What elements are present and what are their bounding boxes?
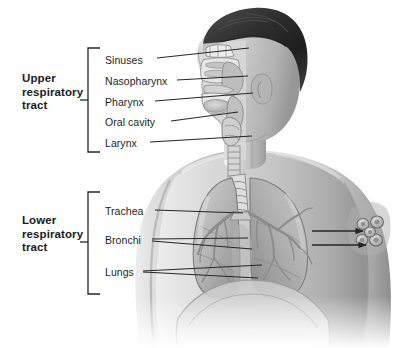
group-label-lower-respiratory-tract: Lower respiratory tract [22,214,92,255]
group-lower-line2: respiratory [22,228,92,242]
group-lower-line3: tract [22,241,92,255]
leader-lungs-b [143,272,258,278]
group-upper-line1: Upper [22,72,92,86]
label-oral-cavity: Oral cavity [105,116,155,128]
group-lower-line1: Lower [22,214,92,228]
leader-nasopharynx [177,76,248,80]
label-larynx: Larynx [105,137,137,149]
label-pharynx: Pharynx [105,96,144,108]
leader-lungs-a [143,265,262,271]
respiratory-diagram-figure: Upper respiratory tract Lower respirator… [0,0,404,348]
leader-oral-cavity [171,112,238,121]
label-sinuses: Sinuses [105,54,143,66]
label-trachea: Trachea [105,205,143,217]
alveoli-arrows [312,231,366,245]
group-upper-line2: respiratory [22,86,92,100]
label-nasopharynx: Nasopharynx [105,75,167,87]
group-upper-line3: tract [22,99,92,113]
leader-larynx [150,136,252,142]
annotation-overlay [0,0,404,348]
label-lungs: Lungs [105,266,134,278]
leader-trachea [155,210,243,213]
leader-sinuses [157,48,249,58]
leader-bronchi-a [152,238,248,239]
leader-bronchi-b [152,241,252,249]
label-bronchi: Bronchi [105,234,141,246]
leader-pharynx [155,93,253,101]
group-label-upper-respiratory-tract: Upper respiratory tract [22,72,92,113]
